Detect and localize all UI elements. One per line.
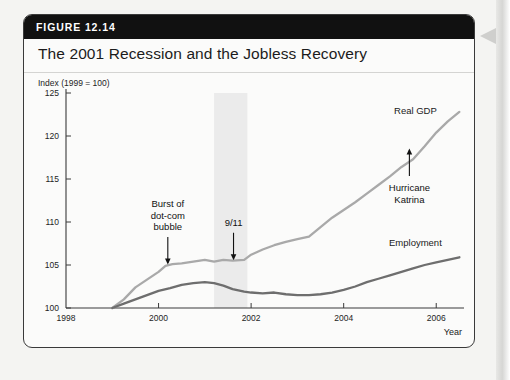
series-line-employment (112, 257, 459, 308)
series-label-employment: Employment (389, 237, 442, 248)
x-axis-tick-label: 2006 (427, 313, 446, 323)
figure-card: FIGURE 12.14 The 2001 Recession and the … (23, 14, 475, 348)
x-axis-tick-label: 2004 (334, 313, 353, 323)
series-label-real-gdp: Real GDP (394, 105, 437, 116)
y-axis-tick-label: 100 (45, 303, 59, 313)
annotation-label: Burst of (151, 198, 184, 209)
x-axis-tick-label: 2000 (149, 313, 168, 323)
recession-shaded-band (214, 93, 247, 308)
annotation-label: bubble (154, 221, 183, 232)
y-axis-tick-label: 110 (45, 217, 59, 227)
chart-plot-area: 10010511011512012519982000200220042006Ye… (24, 15, 475, 348)
page-edge-sliver (496, 0, 510, 380)
annotation-label: 9/11 (225, 217, 243, 228)
annotation-label: dot-com (151, 210, 185, 221)
annotation-label: Katrina (394, 194, 425, 205)
y-axis-tick-label: 105 (45, 260, 59, 270)
x-axis-name: Year (444, 327, 462, 337)
y-axis-tick-label: 120 (45, 131, 59, 141)
annotation-label: Hurricane (389, 182, 430, 193)
line-chart-svg: 10010511011512012519982000200220042006Ye… (24, 15, 475, 348)
y-axis-tick-label: 115 (45, 174, 59, 184)
x-axis-tick-label: 2002 (242, 313, 261, 323)
annotation-arrow-head-icon (407, 149, 413, 155)
x-axis-tick-label: 1998 (57, 313, 76, 323)
annotation-arrow-head-icon (165, 259, 171, 265)
y-axis-tick-label: 125 (45, 88, 59, 98)
